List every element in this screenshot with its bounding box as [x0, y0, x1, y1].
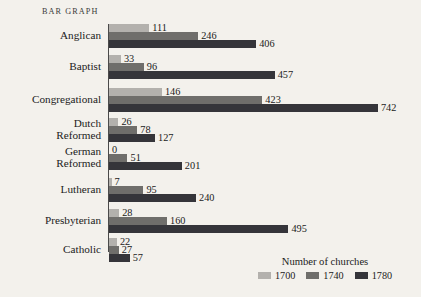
category-label: Dutch Reformed — [0, 118, 101, 141]
legend-label: 1780 — [372, 270, 392, 281]
bar — [109, 63, 144, 71]
bar-value-label: 201 — [182, 161, 200, 172]
bar-value-label: 57 — [130, 253, 143, 264]
legend-swatch-icon — [306, 272, 319, 279]
bar-value-label: 406 — [256, 39, 274, 50]
bar — [109, 254, 130, 262]
category-label: Baptist — [0, 61, 101, 73]
bar-graph-figure: BAR GRAPH Anglican111246406Baptist339645… — [0, 0, 421, 297]
bar — [109, 104, 378, 112]
bar — [109, 134, 155, 142]
legend-label: 1740 — [323, 270, 343, 281]
bar — [109, 238, 117, 246]
legend-label: 1700 — [275, 270, 295, 281]
bar — [109, 194, 196, 202]
bar — [109, 209, 119, 217]
bar-value-label: 240 — [196, 193, 214, 204]
bar — [109, 162, 182, 170]
legend-item[interactable]: 1780 — [355, 270, 392, 281]
category-label: Catholic — [0, 244, 101, 256]
bar — [109, 154, 127, 162]
bar — [109, 225, 288, 233]
bar-value-label: 742 — [378, 103, 396, 114]
bar — [109, 96, 262, 104]
bar-value-label: 127 — [155, 133, 173, 144]
legend-swatch-icon — [258, 272, 271, 279]
bar — [109, 246, 119, 254]
category-label: Anglican — [0, 30, 101, 42]
category-label: German Reformed — [0, 146, 101, 169]
bar-value-label: 457 — [275, 70, 293, 81]
plot-area: Anglican111246406Baptist3396457Congregat… — [0, 22, 421, 254]
legend-swatch-icon — [355, 272, 368, 279]
category-label: Lutheran — [0, 184, 101, 196]
legend-title: Number of churches — [232, 256, 418, 267]
bar — [109, 32, 198, 40]
bar — [109, 71, 275, 79]
bar — [109, 24, 149, 32]
page-title: BAR GRAPH — [42, 7, 99, 16]
bar — [109, 55, 121, 63]
bar — [109, 40, 256, 48]
legend-item[interactable]: 1740 — [306, 270, 343, 281]
legend-items: 170017401780 — [232, 270, 418, 281]
legend-item[interactable]: 1700 — [258, 270, 295, 281]
bar-value-label: 495 — [288, 224, 306, 235]
bar — [109, 118, 118, 126]
bar — [109, 186, 143, 194]
bar — [109, 126, 137, 134]
category-label: Congregational — [0, 94, 101, 106]
category-label: Presbyterian — [0, 215, 101, 227]
bar — [109, 217, 167, 225]
bar — [109, 88, 162, 96]
chart-legend: Number of churches 170017401780 — [232, 256, 418, 281]
